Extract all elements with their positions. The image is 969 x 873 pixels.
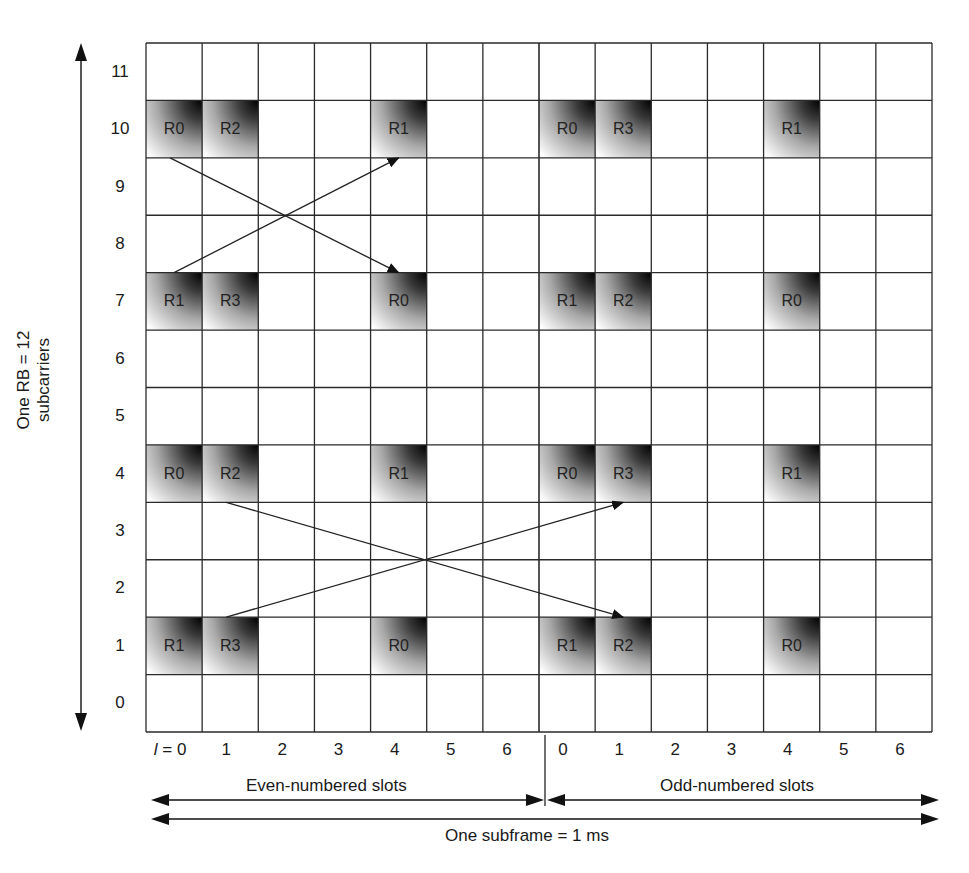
x-tick-label: 4 [760, 740, 816, 760]
reference-cell-label: R1 [146, 273, 202, 330]
x-tick-label: 5 [423, 740, 479, 760]
y-tick-label: 7 [100, 291, 140, 311]
reference-cell-label: R1 [371, 445, 427, 502]
subframe-label: One subframe = 1 ms [445, 826, 609, 846]
y-tick-label: 9 [100, 177, 140, 197]
y-tick-label: 2 [100, 578, 140, 598]
reference-cell-label: R0 [371, 617, 427, 674]
y-tick-label: 4 [100, 464, 140, 484]
x-tick-label: l = 0 [142, 740, 198, 760]
reference-cell-label: R3 [202, 617, 258, 674]
reference-cell-label: R0 [764, 617, 820, 674]
reference-cell-label: R1 [146, 617, 202, 674]
x-tick-label: 4 [367, 740, 423, 760]
reference-cell-label: R2 [595, 273, 651, 330]
y-axis-title-line2: subcarriers [34, 230, 54, 530]
odd-slots-label: Odd-numbered slots [660, 776, 814, 796]
y-tick-label: 0 [100, 693, 140, 713]
reference-cell-label: R1 [764, 100, 820, 157]
x-tick-label: 1 [198, 740, 254, 760]
reference-cell-label: R0 [146, 445, 202, 502]
x-tick-label: 5 [816, 740, 872, 760]
y-tick-label: 10 [100, 119, 140, 139]
x-tick-label: 6 [872, 740, 928, 760]
reference-cell-label: R3 [595, 100, 651, 157]
y-tick-label: 11 [100, 62, 140, 82]
x-tick-label: 3 [310, 740, 366, 760]
y-tick-label: 8 [100, 234, 140, 254]
reference-cell-label: R0 [539, 445, 595, 502]
reference-cell-label: R0 [539, 100, 595, 157]
axis-arrows [75, 43, 939, 825]
x-tick-label: 3 [703, 740, 759, 760]
y-tick-label: 1 [100, 636, 140, 656]
y-tick-label: 3 [100, 521, 140, 541]
reference-cell-label: R3 [595, 445, 651, 502]
x-tick-label: 6 [479, 740, 535, 760]
reference-cell-label: R2 [595, 617, 651, 674]
reference-cell-label: R1 [371, 100, 427, 157]
y-tick-label: 5 [100, 406, 140, 426]
reference-cell-label: R1 [764, 445, 820, 502]
reference-cell-label: R1 [539, 617, 595, 674]
reference-cell-label: R0 [764, 273, 820, 330]
y-axis-title: One RB = 12 subcarriers [14, 230, 54, 530]
reference-cell-label: R0 [371, 273, 427, 330]
y-axis-title-line1: One RB = 12 [14, 230, 34, 530]
reference-cell-label: R2 [202, 445, 258, 502]
x-tick-label: 2 [647, 740, 703, 760]
reference-cell-label: R3 [202, 273, 258, 330]
y-tick-label: 6 [100, 349, 140, 369]
reference-cell-label: R2 [202, 100, 258, 157]
reference-cell-label: R0 [146, 100, 202, 157]
reference-cell-label: R1 [539, 273, 595, 330]
x-tick-label: 0 [535, 740, 591, 760]
x-tick-label: 2 [254, 740, 310, 760]
even-slots-label: Even-numbered slots [246, 776, 407, 796]
x-tick-label: 1 [591, 740, 647, 760]
